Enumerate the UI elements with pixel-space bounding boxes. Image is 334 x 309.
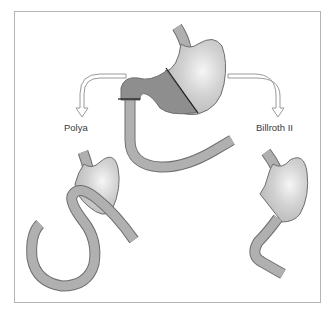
polya-label: Polya (64, 122, 88, 133)
gastrectomy-diagram (0, 0, 334, 309)
arrow-left (76, 74, 126, 117)
billroth-ii-label: Billroth II (256, 122, 293, 133)
billroth-ii-reconstruction (255, 152, 308, 274)
top-stomach (118, 27, 232, 167)
arrow-right (228, 74, 284, 117)
polya-reconstruction (32, 152, 134, 286)
